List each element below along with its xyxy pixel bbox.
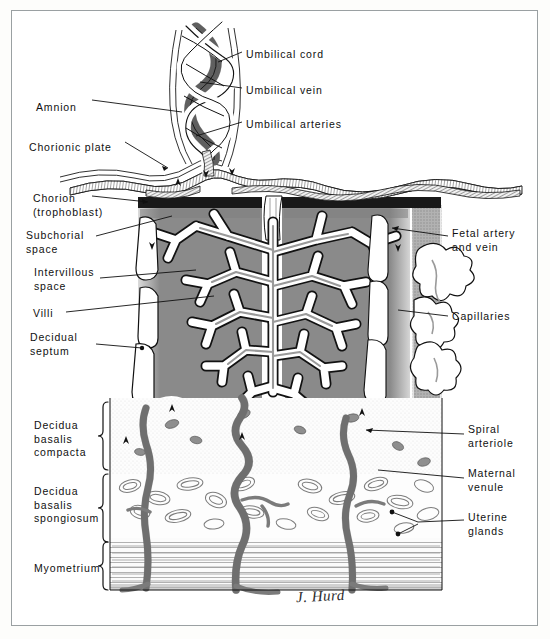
label-capillaries: Capillaries [452,310,510,324]
label-chorion-trophoblast: Chorion (trophoblast) [33,192,103,219]
label-decidua-basalis-spongiosum: Decidua basalis spongiosum [34,485,99,526]
label-decidua-basalis-compacta: Decidua basalis compacta [34,419,86,460]
figure-canvas: Amnion Chorionic plate Chorion (trophobl… [0,0,550,639]
label-chorionic-plate: Chorionic plate [29,141,112,155]
label-uterine-glands: Uterine glands [468,511,508,538]
label-maternal-venule: Maternal venule [468,467,516,494]
decidua-basalis-compacta [110,398,442,474]
label-subchorial-space: Subchorial space [26,229,84,256]
umbilical-cord [181,22,234,176]
label-umbilical-cord: Umbilical cord [246,48,324,62]
chorion-trophoblast-band [138,197,441,208]
label-spiral-arteriole: Spiral arteriole [468,423,514,450]
label-umbilical-vein: Umbilical vein [246,84,323,98]
label-amnion: Amnion [36,101,77,115]
myometrium [110,538,442,590]
label-decidual-septum: Decidual septum [30,331,78,358]
artist-signature: J. Hurd [296,587,346,607]
bracket-compacta [98,402,108,470]
label-umbilical-arteries: Umbilical arteries [246,118,342,132]
bracket-spongiosum [98,474,108,542]
decidual-septum [132,217,158,406]
label-fetal-artery-and-vein: Fetal artery and vein [452,227,515,254]
label-myometrium: Myometrium [34,562,100,576]
label-villi: Villi [33,307,53,321]
label-intervillous-space: Intervillous space [34,266,94,293]
